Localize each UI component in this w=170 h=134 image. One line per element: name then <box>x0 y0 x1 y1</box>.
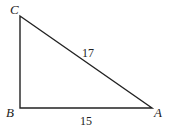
triangle-diagram: C B A 17 15 <box>0 0 170 134</box>
side-label-base: 15 <box>80 114 92 128</box>
vertex-label-c: C <box>10 2 19 17</box>
triangle-abc <box>20 16 152 108</box>
side-label-hypotenuse: 17 <box>82 46 94 60</box>
vertex-label-a: A <box>153 105 162 120</box>
vertex-label-b: B <box>6 105 14 120</box>
